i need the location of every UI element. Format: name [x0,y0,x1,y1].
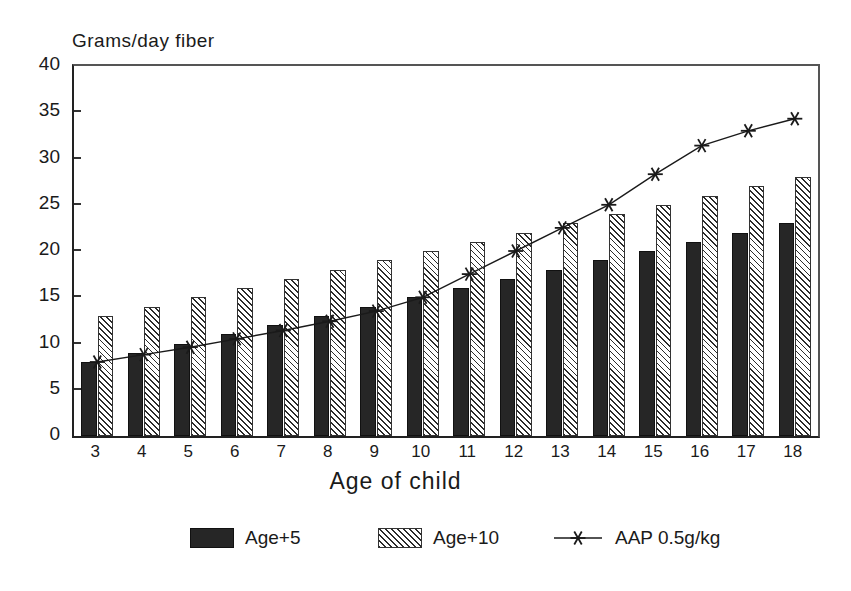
aap-line-path [97,119,795,362]
y-axis-tick-label: 5 [18,377,60,399]
y-axis-tick-label: 0 [18,423,60,445]
x-axis-tick-label-16: 16 [690,442,709,462]
x-axis-tick-label-12: 12 [504,442,523,462]
x-axis-tick-label-3: 3 [91,442,100,462]
x-axis-tick-label-15: 15 [644,442,663,462]
aap-marker-18 [787,112,802,125]
x-axis-tick-label-7: 7 [277,442,286,462]
plot-area [72,64,820,438]
x-axis-tick-label-14: 14 [597,442,616,462]
legend-item-1: Age+5 [190,527,300,549]
x-axis-title: Age of child [0,468,851,495]
x-axis-tick-label-18: 18 [783,442,802,462]
y-axis-tick-label: 40 [18,53,60,75]
legend-label: Age+5 [245,527,300,549]
aap-marker-15 [648,168,663,181]
aap-marker-13 [555,221,570,234]
x-axis-title-text: Age of child [329,468,461,495]
x-axis-tick-label-6: 6 [230,442,239,462]
aap-marker-5 [183,341,198,354]
aap-marker-4 [136,348,151,361]
y-axis-tick-label: 35 [18,99,60,121]
aap-marker-16 [694,139,709,152]
x-axis-tick-label-9: 9 [370,442,379,462]
x-axis-tick-label-5: 5 [184,442,193,462]
aap-marker-7 [276,324,291,337]
aap-marker-8 [322,315,337,328]
legend-label: Age+10 [433,527,499,549]
y-axis-tick-label: 20 [18,238,60,260]
legend-item-3: AAP 0.5g/kg [552,527,720,549]
x-axis-tick-label-13: 13 [551,442,570,462]
y-axis-tick-label: 10 [18,331,60,353]
aap-marker-14 [601,198,616,211]
y-axis-tick-label: 25 [18,192,60,214]
aap-marker-11 [462,268,477,281]
chart-legend: Age+5Age+10AAP 0.5g/kg [0,521,851,561]
y-axis-title: Grams/day fiber [72,30,215,52]
legend-line-asterisk-icon [552,528,604,548]
legend-swatch-hatched-icon [378,528,422,548]
aap-line-series [74,66,818,436]
legend-item-2: Age+10 [378,527,499,549]
x-axis-tick-label-8: 8 [323,442,332,462]
x-axis-tick-label-4: 4 [137,442,146,462]
x-axis-tick-label-11: 11 [458,442,476,462]
y-axis-tick-label: 15 [18,284,60,306]
x-axis-tick-label-17: 17 [737,442,756,462]
y-axis-tick-label: 30 [18,146,60,168]
aap-marker-3 [90,356,105,369]
aap-marker-9 [369,305,384,318]
legend-label: AAP 0.5g/kg [615,527,720,549]
aap-marker-6 [229,332,244,345]
legend-swatch-solid-icon [190,528,234,548]
aap-marker-12 [508,245,523,258]
aap-marker-10 [415,291,430,304]
x-axis-tick-label-10: 10 [411,442,430,462]
fiber-intake-chart: Grams/day fiber 0510152025303540 3456789… [0,0,851,591]
aap-marker-17 [741,124,756,137]
